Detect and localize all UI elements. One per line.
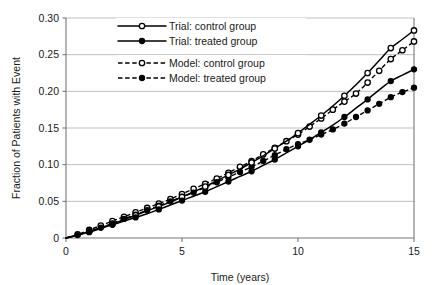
data-point-marker bbox=[203, 184, 208, 189]
data-point-marker bbox=[411, 39, 416, 44]
legend-label: Trial: treated group bbox=[169, 35, 257, 47]
data-point-marker bbox=[319, 113, 324, 118]
data-point-marker bbox=[133, 215, 138, 220]
y-tick-label: 0.20 bbox=[39, 85, 60, 97]
data-point-marker bbox=[249, 160, 254, 165]
data-point-marker bbox=[365, 97, 370, 102]
data-point-marker bbox=[412, 67, 417, 72]
y-tick-label: 0.30 bbox=[39, 12, 60, 24]
y-tick-label: 0.10 bbox=[39, 158, 60, 170]
data-point-marker bbox=[365, 108, 370, 113]
data-point-marker bbox=[87, 230, 92, 235]
data-point-marker bbox=[295, 130, 300, 135]
data-point-marker bbox=[156, 207, 161, 212]
legend-marker-sample bbox=[139, 60, 144, 65]
data-point-marker bbox=[377, 101, 382, 106]
chart-figure: 00.050.100.150.200.250.30 051015 Fractio… bbox=[0, 0, 434, 285]
data-point-marker bbox=[272, 146, 277, 151]
data-point-marker bbox=[319, 130, 324, 135]
data-point-marker bbox=[354, 115, 359, 120]
data-point-marker bbox=[365, 80, 370, 85]
data-point-marker bbox=[226, 179, 231, 184]
data-point-marker bbox=[226, 172, 231, 177]
legend-label: Trial: control group bbox=[169, 20, 256, 32]
data-point-marker bbox=[365, 70, 370, 75]
data-point-marker bbox=[411, 28, 416, 33]
y-tick-label: 0 bbox=[53, 232, 59, 244]
data-point-marker bbox=[342, 99, 347, 104]
data-point-marker bbox=[261, 159, 266, 164]
line-chart: 00.050.100.150.200.250.30 051015 Fractio… bbox=[0, 0, 434, 285]
data-point-marker bbox=[400, 48, 405, 53]
data-point-marker bbox=[342, 121, 347, 126]
x-tick-label: 0 bbox=[63, 245, 69, 257]
data-point-marker bbox=[203, 189, 208, 194]
legend-item: Trial: control group bbox=[116, 18, 306, 33]
data-point-marker bbox=[330, 127, 335, 132]
legend-marker-sample bbox=[140, 76, 145, 81]
legend-item: Trial: treated group bbox=[116, 33, 306, 48]
data-point-marker bbox=[388, 95, 393, 100]
legend-marker-sample bbox=[140, 39, 145, 44]
data-point-marker bbox=[284, 147, 289, 152]
data-point-marker bbox=[342, 115, 347, 120]
legend-marker-sample bbox=[139, 23, 144, 28]
data-point-marker bbox=[388, 45, 393, 50]
data-point-marker bbox=[388, 56, 393, 61]
data-point-marker bbox=[110, 222, 115, 227]
legend-item: Model: control group bbox=[116, 55, 306, 70]
data-point-marker bbox=[412, 85, 417, 90]
legend-item: Model: treated group bbox=[116, 70, 306, 85]
x-axis-title: Time (years) bbox=[211, 271, 270, 283]
data-point-marker bbox=[377, 68, 382, 73]
data-point-marker bbox=[400, 90, 405, 95]
legend-label: Model: control group bbox=[169, 57, 265, 69]
x-tick-label: 5 bbox=[179, 245, 185, 257]
y-tick-label: 0.05 bbox=[39, 195, 60, 207]
data-point-marker bbox=[249, 169, 254, 174]
y-tick-label: 0.15 bbox=[39, 122, 60, 134]
data-point-marker bbox=[388, 79, 393, 84]
y-axis-title: Fraction of Patients with Event bbox=[10, 57, 22, 199]
legend-label: Model: treated group bbox=[169, 72, 266, 84]
data-point-marker bbox=[296, 144, 301, 149]
data-point-marker bbox=[353, 91, 358, 96]
data-point-marker bbox=[342, 93, 347, 98]
x-tick-label: 15 bbox=[408, 245, 420, 257]
y-tick-label: 0.25 bbox=[39, 48, 60, 60]
data-point-marker bbox=[272, 157, 277, 162]
data-point-marker bbox=[180, 198, 185, 203]
x-tick-label: 10 bbox=[292, 245, 304, 257]
